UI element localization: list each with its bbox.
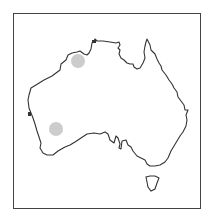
northwest-marker	[71, 54, 85, 68]
tasmania-coastline	[146, 176, 159, 191]
shark-bay-mark	[28, 112, 31, 116]
melville-island	[92, 40, 96, 43]
southwest-marker	[49, 122, 63, 136]
australia-map	[0, 0, 208, 211]
mainland-coastline	[28, 39, 188, 166]
